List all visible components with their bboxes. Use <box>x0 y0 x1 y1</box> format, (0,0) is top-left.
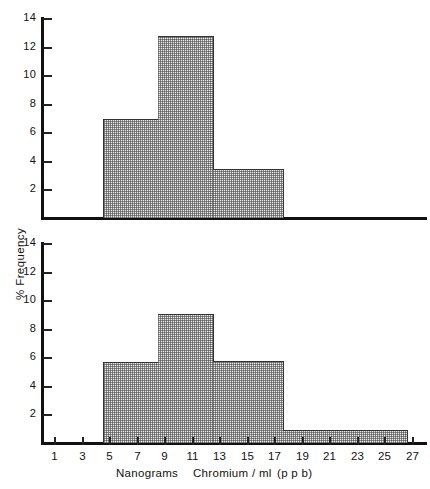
lower-ytick-2 <box>43 414 52 416</box>
xtick-11 <box>192 437 194 445</box>
xtick-3 <box>82 437 84 445</box>
xtick-1 <box>54 437 56 445</box>
lower-ytick-label-12: 12 <box>8 265 36 277</box>
xtick-label-11: 11 <box>179 450 206 462</box>
xtick-label-23: 23 <box>344 450 371 462</box>
x-axis-title-chromium: Chromium / ml <box>193 467 272 479</box>
lower-ytick-label-14: 14 <box>8 236 36 248</box>
lower-bar-9-13 <box>158 314 214 443</box>
xtick-15 <box>247 437 249 445</box>
xtick-27 <box>412 437 414 445</box>
xtick-21 <box>329 437 331 445</box>
xtick-7 <box>137 437 139 445</box>
xtick-label-3: 3 <box>69 450 96 462</box>
lower-ytick-label-10: 10 <box>8 293 36 305</box>
lower-ytick-8 <box>43 329 52 331</box>
lower-ytick-10 <box>43 300 52 302</box>
lower-ytick-label-6: 6 <box>8 350 36 362</box>
xtick-13 <box>219 437 221 445</box>
lower-ytick-12 <box>43 272 52 274</box>
histogram-figure: % Frequency 2 4 6 8 10 12 14 <box>0 0 430 489</box>
lower-ytick-label-4: 4 <box>8 379 36 391</box>
xtick-17 <box>274 437 276 445</box>
xtick-23 <box>357 437 359 445</box>
x-axis-title-nanograms: Nanograms <box>116 467 178 479</box>
lower-ytick-label-2: 2 <box>8 407 36 419</box>
xtick-label-9: 9 <box>151 450 178 462</box>
xtick-label-21: 21 <box>316 450 343 462</box>
xtick-label-17: 17 <box>261 450 288 462</box>
lower-ytick-14 <box>43 243 52 245</box>
xtick-label-13: 13 <box>206 450 233 462</box>
xtick-label-25: 25 <box>371 450 398 462</box>
xtick-label-5: 5 <box>96 450 123 462</box>
xtick-label-19: 19 <box>289 450 316 462</box>
lower-bar-13-18 <box>213 361 284 443</box>
lower-ytick-4 <box>43 386 52 388</box>
lower-panel: 2 4 6 8 10 12 14 <box>0 0 430 489</box>
lower-ytick-label-8: 8 <box>8 322 36 334</box>
xtick-label-27: 27 <box>399 450 426 462</box>
xtick-5 <box>109 437 111 445</box>
lower-ytick-6 <box>43 357 52 359</box>
lower-bar-5-9 <box>103 362 159 443</box>
xtick-25 <box>384 437 386 445</box>
xtick-19 <box>302 437 304 445</box>
xtick-9 <box>164 437 166 445</box>
xtick-label-1: 1 <box>41 450 68 462</box>
xtick-label-15: 15 <box>234 450 261 462</box>
xtick-label-7: 7 <box>124 450 151 462</box>
x-axis-title-units: (p p b) <box>277 467 312 479</box>
